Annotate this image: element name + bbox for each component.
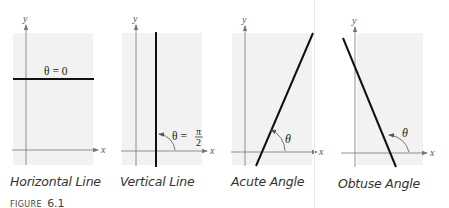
x-axis-label: x bbox=[429, 147, 435, 158]
caption-acute-angle: Acute Angle bbox=[231, 174, 304, 189]
figure-label: FIGURE 6.1 bbox=[10, 192, 65, 208]
y-axis-label: y bbox=[22, 13, 28, 24]
caption-obtuse-angle: Obtuse Angle bbox=[338, 176, 420, 191]
caption-vertical-line: Vertical Line bbox=[120, 174, 194, 189]
plot-area bbox=[122, 33, 202, 165]
angle-label: θ bbox=[285, 132, 291, 146]
figure-6-1: x y θ = 0 x y θ = π 2 x y bbox=[0, 0, 449, 208]
y-axis-label: y bbox=[241, 14, 247, 25]
x-axis-label: x bbox=[209, 145, 215, 156]
column-divider bbox=[314, 0, 315, 208]
panel-horizontal-line: x y θ = 0 bbox=[12, 13, 106, 165]
x-axis-label: x bbox=[318, 146, 324, 157]
x-axis-label: x bbox=[100, 144, 106, 155]
angle-label: θ = bbox=[172, 130, 187, 142]
y-axis-label: y bbox=[351, 15, 357, 26]
caption-horizontal-line: Horizontal Line bbox=[10, 174, 101, 189]
plot-area bbox=[13, 33, 93, 165]
panel-acute-angle: x y θ bbox=[231, 14, 324, 166]
angle-fraction-denominator: 2 bbox=[196, 137, 201, 148]
panel-obtuse-angle: x y θ bbox=[341, 15, 435, 167]
plot-area bbox=[232, 33, 312, 165]
figure-label-prefix: FIGURE bbox=[10, 200, 42, 208]
figure-label-number: 6.1 bbox=[47, 197, 65, 208]
y-axis-label: y bbox=[132, 13, 138, 24]
angle-label: θ bbox=[402, 126, 408, 140]
panel-vertical-line: x y θ = π 2 bbox=[121, 13, 215, 167]
angle-label: θ = 0 bbox=[44, 65, 68, 77]
angle-fraction-numerator: π bbox=[196, 126, 201, 137]
plot-area bbox=[357, 33, 423, 165]
